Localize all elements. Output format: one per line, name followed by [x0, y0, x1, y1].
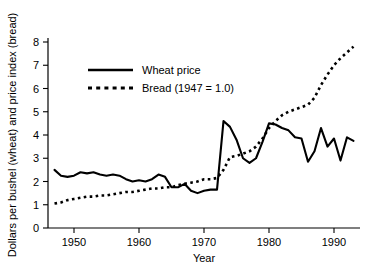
- x-tick-label: 1970: [192, 236, 216, 248]
- y-tick-label: 2: [33, 176, 39, 188]
- y-tick-label: 3: [33, 152, 39, 164]
- y-axis-ticks: 012345678: [33, 36, 48, 234]
- series-line-wheat-price: [55, 121, 354, 193]
- chart-legend: Wheat price Bread (1947 = 1.0): [88, 64, 234, 94]
- legend-label-bread: Bread (1947 = 1.0): [142, 82, 234, 94]
- x-tick-label: 1980: [257, 236, 281, 248]
- x-axis-ticks: 19501960197019801990: [62, 228, 346, 248]
- y-tick-label: 6: [33, 83, 39, 95]
- y-tick-label: 4: [33, 129, 39, 141]
- x-tick-label: 1960: [127, 236, 151, 248]
- y-tick-label: 7: [33, 59, 39, 71]
- y-tick-label: 5: [33, 106, 39, 118]
- wheat-bread-price-line-chart: 012345678 19501960197019801990 Wheat pri…: [0, 0, 373, 280]
- chart-figure: 012345678 19501960197019801990 Wheat pri…: [0, 0, 373, 280]
- x-tick-label: 1950: [62, 236, 86, 248]
- legend-label-wheat-price: Wheat price: [142, 64, 201, 76]
- y-tick-label: 0: [33, 222, 39, 234]
- y-tick-label: 8: [33, 36, 39, 48]
- y-axis-title: Dollars per bushel (wheat) and price ind…: [6, 13, 18, 258]
- x-axis-title: Year: [193, 252, 216, 264]
- x-tick-label: 1990: [322, 236, 346, 248]
- y-tick-label: 1: [33, 199, 39, 211]
